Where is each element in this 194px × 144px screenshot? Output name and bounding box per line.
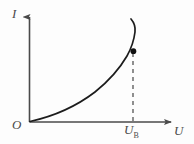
breakdown-point-marker bbox=[131, 48, 137, 54]
iv-characteristic-figure: I O U UB bbox=[0, 0, 194, 144]
breakdown-voltage-symbol: U bbox=[124, 122, 133, 137]
iv-curve bbox=[30, 19, 135, 122]
breakdown-voltage-subscript: B bbox=[133, 131, 138, 140]
x-axis-label: U bbox=[174, 124, 183, 137]
figure-canvas bbox=[0, 0, 194, 144]
breakdown-voltage-label: UB bbox=[124, 123, 139, 140]
origin-label: O bbox=[12, 118, 21, 131]
y-axis-label: I bbox=[12, 7, 16, 20]
